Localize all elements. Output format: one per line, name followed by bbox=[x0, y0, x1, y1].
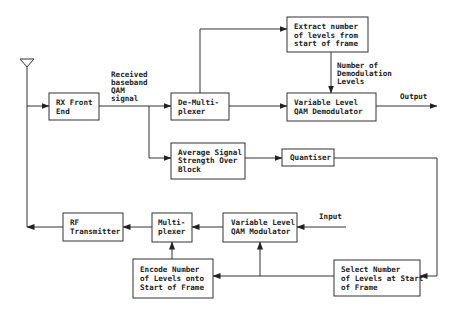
block-select-number: Select Number of Levels at Start of Fram… bbox=[334, 260, 423, 296]
svg-text:signal: signal bbox=[111, 94, 139, 103]
svg-text:RF: RF bbox=[70, 218, 80, 227]
block-demultiplexer: De-Multi- plexer bbox=[171, 93, 229, 120]
svg-text:Encode Number: Encode Number bbox=[140, 265, 200, 274]
svg-text:Variable Level: Variable Level bbox=[231, 218, 295, 227]
svg-text:plexer: plexer bbox=[178, 107, 206, 116]
svg-text:start of frame: start of frame bbox=[294, 39, 358, 48]
antenna-icon bbox=[20, 59, 34, 227]
svg-text:Levels: Levels bbox=[337, 77, 364, 86]
svg-text:QAM Modulator: QAM Modulator bbox=[231, 227, 291, 236]
svg-text:Strength Over: Strength Over bbox=[178, 156, 238, 165]
svg-text:Extract number: Extract number bbox=[294, 22, 358, 31]
block-multiplexer: Multi- plexer bbox=[152, 213, 192, 242]
label-output: Output bbox=[400, 92, 427, 101]
svg-text:of Levels onto: of Levels onto bbox=[140, 274, 204, 283]
block-diagram: RX Front End De-Multi- plexer Extract nu… bbox=[0, 0, 458, 312]
svg-text:Transmitter: Transmitter bbox=[70, 227, 121, 236]
svg-text:Quantiser: Quantiser bbox=[290, 153, 332, 162]
svg-text:End: End bbox=[56, 107, 70, 116]
block-rx-front-end: RX Front End bbox=[49, 93, 99, 120]
block-average-signal-strength: Average Signal Strength Over Block bbox=[171, 143, 245, 179]
block-qam-modulator: Variable Level QAM Modulator bbox=[223, 213, 297, 242]
label-demodulation-levels: Number of Demodulation Levels bbox=[337, 61, 392, 86]
block-quantiser: Quantiser bbox=[282, 149, 334, 166]
svg-text:Select Number: Select Number bbox=[341, 265, 401, 274]
svg-text:Block: Block bbox=[178, 165, 201, 174]
svg-text:Multi-: Multi- bbox=[158, 218, 185, 227]
svg-text:De-Multi-: De-Multi- bbox=[178, 98, 219, 107]
label-input: Input bbox=[319, 212, 342, 221]
block-rf-transmitter: RF Transmitter bbox=[63, 213, 123, 241]
block-extract-levels: Extract number of levels from start of f… bbox=[287, 17, 368, 52]
svg-text:QAM Demodulator: QAM Demodulator bbox=[294, 107, 363, 116]
svg-text:Variable Level: Variable Level bbox=[294, 98, 358, 107]
block-qam-demodulator: Variable Level QAM Demodulator bbox=[287, 93, 376, 121]
svg-text:of Levels at Start: of Levels at Start bbox=[341, 274, 423, 283]
block-encode-number: Encode Number of Levels onto Start of Fr… bbox=[133, 259, 213, 298]
svg-text:Start of Frame: Start of Frame bbox=[140, 283, 204, 292]
svg-text:plexer: plexer bbox=[158, 227, 186, 236]
label-received-signal: Received baseband QAM signal bbox=[111, 70, 148, 103]
svg-text:RX Front: RX Front bbox=[56, 98, 93, 107]
svg-text:of Frame: of Frame bbox=[341, 283, 378, 292]
